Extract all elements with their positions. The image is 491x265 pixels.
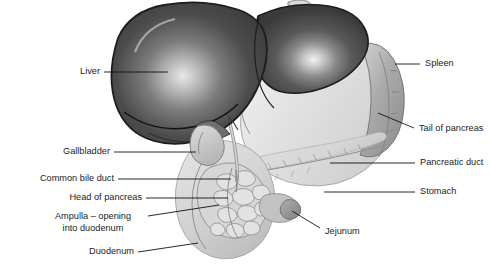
label-head-of-pancreas: Head of pancreas — [69, 192, 142, 202]
label-spleen: Spleen — [425, 58, 454, 68]
label-ampulla-line2: into duodenum — [63, 223, 124, 233]
label-stomach: Stomach — [420, 186, 456, 196]
label-common-bile-duct: Common bile duct — [40, 173, 114, 183]
label-duodenum: Duodenum — [89, 246, 134, 256]
label-jejunum: Jejunum — [325, 226, 360, 236]
label-tail-of-pancreas: Tail of pancreas — [419, 123, 484, 133]
anatomy-diagram: Liver Gallbladder Common bile duct Head … — [0, 0, 491, 265]
label-gallbladder: Gallbladder — [63, 146, 110, 156]
anatomy-illustration: Liver Gallbladder Common bile duct Head … — [0, 0, 491, 265]
label-pancreatic-duct: Pancreatic duct — [420, 157, 484, 167]
organ-jejunum — [259, 194, 301, 223]
leader-jejunum — [292, 211, 320, 228]
label-liver: Liver — [80, 66, 100, 76]
leader-duodenum — [138, 243, 198, 252]
label-ampulla-line1: Ampulla – opening — [55, 211, 131, 221]
